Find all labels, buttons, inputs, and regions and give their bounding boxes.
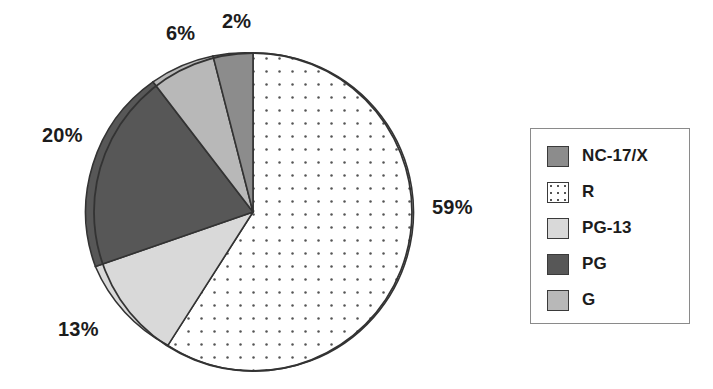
legend-label-g: G <box>582 290 595 310</box>
legend-swatch-pg-13 <box>547 218 569 239</box>
legend-swatch-r <box>547 182 569 203</box>
legend-item-pg-13[interactable]: PG-13 <box>547 210 689 246</box>
legend-item-r[interactable]: R <box>547 174 689 210</box>
chart-legend: NC-17/X R PG-13 PG G <box>530 128 690 324</box>
legend-label-pg-13: PG-13 <box>582 218 632 238</box>
data-label-g: 6% <box>166 22 195 45</box>
data-label-pg: 20% <box>42 124 83 147</box>
legend-swatch-g <box>547 290 569 311</box>
legend-item-pg[interactable]: PG <box>547 246 689 282</box>
data-label-r: 59% <box>432 196 473 219</box>
legend-label-nc-17-x: NC-17/X <box>582 146 648 166</box>
legend-label-pg: PG <box>582 254 607 274</box>
pie-chart-plot-area: 59% 13% 20% 6% 2% <box>0 0 520 389</box>
data-label-nc-17-x: 2% <box>222 10 251 33</box>
legend-item-g[interactable]: G <box>547 282 689 318</box>
pie-chart-page: 59% 13% 20% 6% 2% NC-17/X R PG-13 PG G <box>0 0 713 389</box>
data-label-pg-13: 13% <box>58 318 99 341</box>
legend-swatch-nc-17-x <box>547 146 569 167</box>
legend-item-nc-17-x[interactable]: NC-17/X <box>547 138 689 174</box>
legend-label-r: R <box>582 182 594 202</box>
legend-swatch-pg <box>547 254 569 275</box>
